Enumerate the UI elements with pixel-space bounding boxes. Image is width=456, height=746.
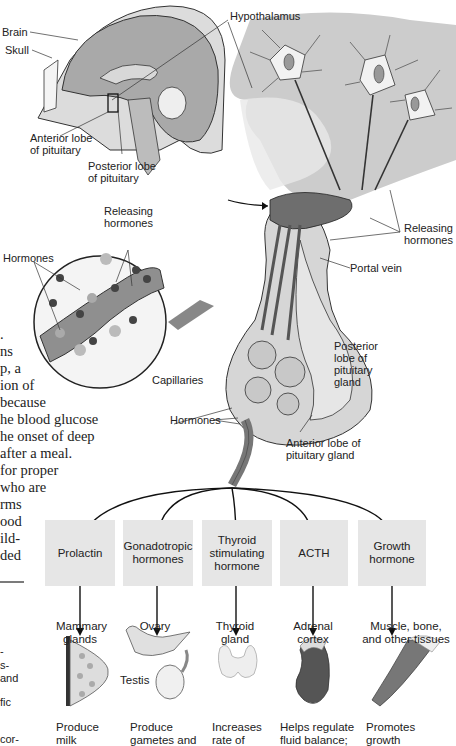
side-text-line: ild- [0,530,20,547]
side-text-line: he onset of deep [0,428,95,445]
label-capillaries: Capillaries [152,374,203,386]
hypothalamus-region [230,13,456,203]
target-testis: Testis [120,674,160,687]
label-skull: Skull [5,44,29,56]
effect-prolactin: Produce milk [56,721,99,746]
side-text-line: . [0,326,4,343]
mammary-gland-image [66,636,108,706]
side-text-line: ood [0,513,22,530]
capillary-inset [34,253,214,388]
side-text-line: who are [0,479,46,496]
side-text-line: fic [0,696,11,708]
side-text-line: ion of [0,377,34,394]
side-text-line: ns [0,343,13,360]
effect-tsh: Increases rate of [212,721,262,746]
testis-image [156,650,187,699]
side-text-line: rms [0,496,22,513]
hormone-box-acth: ACTH [280,520,348,586]
side-text-line: he blood glucose [0,411,98,428]
side-text-line: after a meal. [0,445,72,462]
effect-acth: Helps regulate fluid balance; [280,721,354,746]
effect-growth-hormone: Promotes growth [366,721,415,746]
target-ovary: Ovary [130,620,180,633]
label-hormones: Hormones [170,414,221,426]
target-thyroid-gland: Thyroid gland [210,620,260,646]
label-anterior-lobe-gland: Anterior lobe of pituitary gland [286,437,361,461]
side-text-line: ded [0,547,21,564]
hormone-box-prolactin: Prolactin [45,520,115,586]
side-text-line: and [0,672,18,684]
effect-gonadotropic: Produce gametes and [130,721,197,746]
side-text-line: p, a [0,360,21,377]
target-adrenal-cortex: Adrenal cortex [288,620,338,646]
side-text-line: - [0,645,4,657]
label-hypothalamus: Hypothalamus [230,10,300,22]
adrenal-kidney-image [296,638,330,704]
target-muscle-bone-tissues: Muscle, bone, and other tissues [356,620,456,646]
muscle-image [372,636,440,706]
side-text-line: because [0,394,46,411]
label-posterior-lobe: Posterior lobe of pituitary [88,160,156,184]
hormone-box-gonadotropic: Gonadotropic hormones [123,520,193,586]
hormone-box-growth-hormone: Growth hormone [358,520,426,586]
side-text-line: for proper [0,462,58,479]
label-anterior-lobe: Anterior lobe of pituitary [30,132,92,156]
side-text-line: s- [0,659,9,671]
thyroid-image [218,645,257,677]
label-hormones-inset: Hormones [3,252,54,264]
hormone-box-tsh: Thyroid stimulating hormone [202,520,272,586]
label-releasing-hormones-top: Releasing hormones [104,205,153,229]
label-posterior-lobe-gland: Posterior lobe of pituitary gland [334,340,378,388]
target-mammary-glands: Mammary glands [56,620,104,646]
side-text-line: cor- [0,733,19,745]
label-portal-vein: Portal vein [350,262,402,274]
label-brain: Brain [2,26,28,38]
label-releasing-hormones-right: Releasing hormones [404,222,453,246]
